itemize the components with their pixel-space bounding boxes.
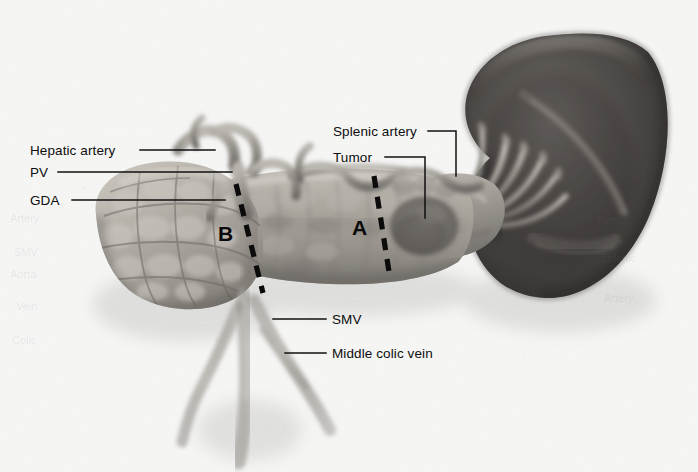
label-hepatic-artery: Hepatic artery (30, 143, 115, 158)
transection-letter-b: B (218, 222, 233, 246)
label-middle-colic-vein: Middle colic vein (332, 346, 433, 361)
anatomical-illustration-figure: Artery SMV Aorta Vein Colic Tumor Spleni… (0, 0, 698, 472)
illustration-canvas (0, 0, 698, 472)
smv-vessel (238, 296, 247, 462)
label-smv: SMV (332, 312, 362, 327)
label-pv: PV (30, 165, 48, 180)
label-gda: GDA (30, 193, 60, 208)
label-tumor: Tumor (333, 150, 372, 165)
transection-letter-a: A (352, 216, 367, 240)
label-splenic-artery: Splenic artery (333, 124, 417, 139)
